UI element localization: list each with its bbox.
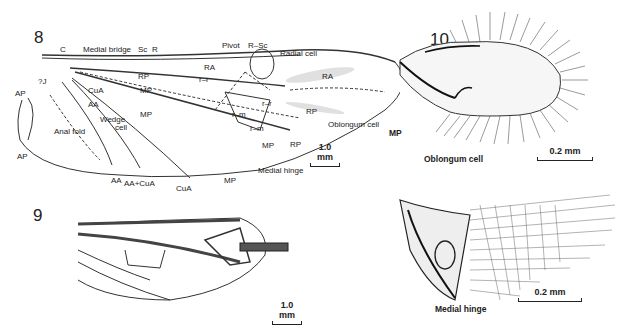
scale-bar-11: 0.2 mm [518, 287, 582, 302]
scale-bar-11-label: 0.2 mm [534, 287, 565, 297]
label-medial-hinge-11: Medial hinge [435, 304, 486, 314]
